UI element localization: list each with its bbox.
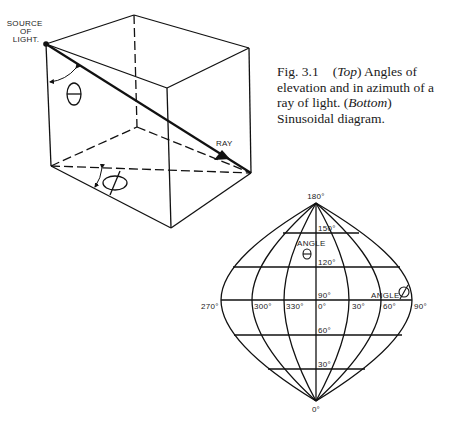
lon-label-60: 60° <box>383 302 396 311</box>
cube-edge <box>167 48 249 88</box>
elevation-angle-arc <box>50 68 76 82</box>
figure-number: Fig. 3.1 <box>277 64 319 79</box>
hidden-edge <box>137 127 251 173</box>
caption-bottom-text: Sinusoidal diagram. <box>277 111 385 126</box>
cube-edge <box>167 88 171 228</box>
lon-label-0: 0° <box>318 302 326 311</box>
lon-label-270: 270° <box>201 302 219 311</box>
angle-theta-label: ANGLE <box>297 239 326 248</box>
lon-label-300: 300° <box>254 302 272 311</box>
hidden-edge <box>51 127 137 166</box>
cube-edge <box>249 48 251 173</box>
theta-symbol-icon <box>67 83 81 105</box>
lat-label-150: 150° <box>318 224 336 233</box>
phi-symbol-icon <box>103 171 127 195</box>
lon-label-30: 30° <box>352 302 365 311</box>
ray-label: RAY <box>216 139 233 148</box>
cube-edge <box>171 173 251 228</box>
cube-edge <box>134 15 249 48</box>
cube-diagram <box>43 15 251 228</box>
sinusoidal-labels: 180° 0° 150° 120° 90° 60° 30° 270° 300° … <box>201 192 427 414</box>
cube-edge <box>51 166 171 228</box>
hidden-edge <box>134 15 137 127</box>
angle-phi-label: ANGLE <box>371 291 400 300</box>
caption-top-label: Top <box>337 64 357 79</box>
lat-label-60: 60° <box>318 326 331 335</box>
lat-label-30: 30° <box>318 360 331 369</box>
azimuth-angle-arc <box>95 168 102 187</box>
source-label: SOURCE OF LIGHT. <box>7 19 46 44</box>
lat-label-90: 90° <box>318 291 331 300</box>
lon-label-330: 330° <box>286 302 304 311</box>
lat-label-120: 120° <box>318 258 336 267</box>
apex-label-180: 180° <box>307 192 325 201</box>
ray-projection <box>51 166 251 173</box>
caption-bottom-label: Bottom <box>348 95 387 110</box>
light-source-point <box>43 41 49 47</box>
cube-edge <box>46 44 51 166</box>
cube-edge <box>46 15 134 44</box>
lon-label-90: 90° <box>414 302 427 311</box>
apex-label-0: 0° <box>312 405 320 414</box>
angle-phi-symbol-icon <box>399 285 409 299</box>
figure-caption: Fig. 3.1(Top) Angles of elevation and in… <box>277 64 447 126</box>
angle-theta-symbol-icon <box>303 249 311 259</box>
